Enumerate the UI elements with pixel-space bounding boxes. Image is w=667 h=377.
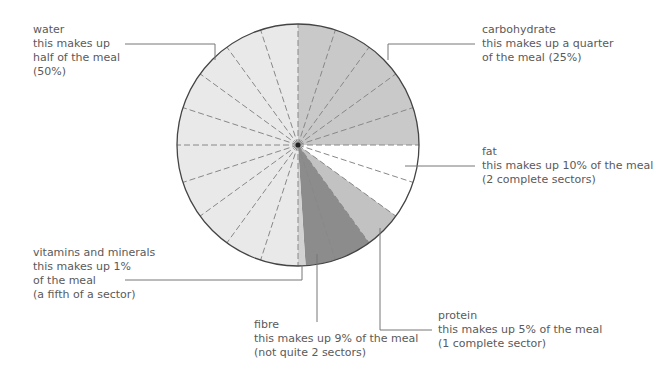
label-water-line3: (50%) bbox=[33, 65, 120, 79]
label-carbohydrate: carbohydrate this makes up a quarter of … bbox=[482, 23, 614, 65]
pie-slice-carbohydrate bbox=[298, 24, 419, 145]
label-fat-line1: this makes up 10% of the meal bbox=[482, 159, 653, 173]
label-vitamins-line1: this makes up 1% bbox=[33, 260, 155, 274]
label-fat: fat this makes up 10% of the meal (2 com… bbox=[482, 145, 653, 187]
label-water-line1: this makes up bbox=[33, 37, 120, 51]
label-fibre: fibre this makes up 9% of the meal (not … bbox=[254, 318, 418, 360]
label-water-line2: half of the meal bbox=[33, 51, 120, 65]
label-vitamins: vitamins and minerals this makes up 1% o… bbox=[33, 246, 155, 302]
label-water-title: water bbox=[33, 23, 120, 37]
leader-line-carbohydrate bbox=[388, 44, 475, 60]
label-fat-title: fat bbox=[482, 145, 653, 159]
label-vitamins-line3: (a fifth of a sector) bbox=[33, 288, 155, 302]
label-protein-title: protein bbox=[438, 309, 602, 323]
label-fibre-line1: this makes up 9% of the meal bbox=[254, 332, 418, 346]
leader-line-water bbox=[125, 44, 215, 60]
label-vitamins-line2: of the meal bbox=[33, 274, 155, 288]
label-carbohydrate-line1: this makes up a quarter bbox=[482, 37, 614, 51]
label-fibre-title: fibre bbox=[254, 318, 418, 332]
label-fat-line2: (2 complete sectors) bbox=[482, 173, 653, 187]
label-vitamins-title: vitamins and minerals bbox=[33, 246, 155, 260]
label-water: water this makes up half of the meal (50… bbox=[33, 23, 120, 79]
pie-center-dot bbox=[296, 143, 301, 148]
label-protein-line2: (1 complete sector) bbox=[438, 337, 602, 351]
label-carbohydrate-title: carbohydrate bbox=[482, 23, 614, 37]
label-carbohydrate-line2: of the meal (25%) bbox=[482, 51, 614, 65]
leader-line-protein bbox=[380, 228, 432, 330]
label-protein-line1: this makes up 5% of the meal bbox=[438, 323, 602, 337]
label-protein: protein this makes up 5% of the meal (1 … bbox=[438, 309, 602, 351]
label-fibre-line2: (not quite 2 sectors) bbox=[254, 346, 418, 360]
